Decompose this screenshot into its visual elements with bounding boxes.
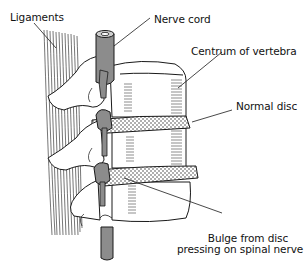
- label-ligaments: Ligaments: [10, 11, 64, 23]
- label-nerve-cord: Nerve cord: [154, 13, 211, 25]
- label-bulge-line2: pressing on spinal nerve: [176, 243, 304, 255]
- label-centrum: Centrum of vertebra: [191, 45, 297, 57]
- label-normal-disc: Normal disc: [236, 100, 297, 112]
- spine-illustration: [0, 0, 306, 266]
- nerve-cord-lower: [101, 227, 113, 260]
